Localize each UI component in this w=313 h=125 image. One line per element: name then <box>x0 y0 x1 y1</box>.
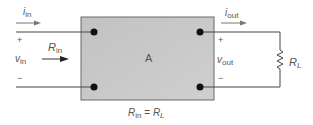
input-voltage-label: vin <box>15 53 26 66</box>
load-resistance-label: RL <box>289 56 301 70</box>
output-current-arrowhead-icon <box>240 21 247 26</box>
output-plus-sign: + <box>218 35 223 45</box>
matching-condition-caption: Rin = RL <box>128 107 165 120</box>
input-current-label: iin <box>23 6 31 19</box>
amplifier-circuit-diagram: A iin + vin − Rin iout + vout − RL Rin =… <box>0 0 313 125</box>
input-resistance-label: Rin <box>48 41 62 55</box>
output-top-terminal <box>197 29 204 36</box>
input-minus-sign: − <box>17 73 22 83</box>
input-bottom-terminal <box>91 84 98 91</box>
output-bottom-terminal <box>197 84 204 91</box>
input-top-terminal <box>91 29 98 36</box>
input-resistance-arrowhead-icon <box>60 56 69 62</box>
output-minus-sign: − <box>218 73 223 83</box>
input-current-arrowhead-icon <box>34 21 41 26</box>
input-plus-sign: + <box>17 35 22 45</box>
output-current-label: iout <box>225 7 239 20</box>
load-resistor-icon <box>277 32 283 87</box>
block-label: A <box>145 52 153 64</box>
output-voltage-label: vout <box>217 54 234 67</box>
